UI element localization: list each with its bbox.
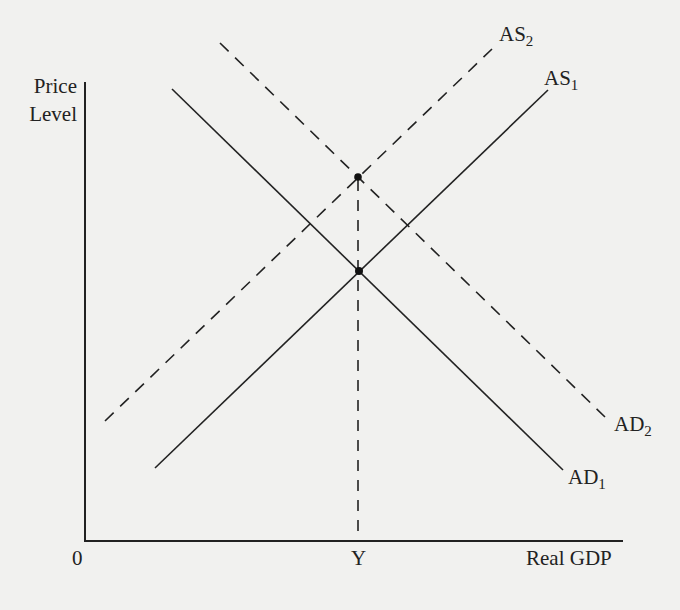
equilibrium-2-point	[354, 173, 362, 181]
as2-label: AS2	[499, 24, 533, 49]
equilibrium-1-point	[355, 267, 363, 275]
y-axis-label: Price Level	[23, 72, 77, 128]
ad1-curve	[172, 89, 563, 470]
as2-curve	[105, 49, 492, 421]
ad1-label: AD1	[568, 467, 606, 492]
ad2-label: AD2	[614, 414, 652, 439]
origin-label: 0	[72, 548, 83, 569]
y-axis-label-line2: Level	[23, 100, 77, 128]
y-axis-label-line1: Price	[23, 72, 77, 100]
ad2-curve	[220, 43, 605, 417]
as1-label: AS1	[544, 68, 578, 93]
x-tick-label-y: Y	[351, 548, 366, 569]
as1-curve	[155, 90, 548, 468]
x-axis-label: Real GDP	[526, 548, 612, 569]
